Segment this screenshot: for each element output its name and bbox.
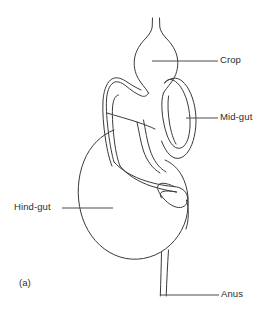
midgut-lower-sweep-bottom — [120, 166, 177, 192]
label-anus: Anus — [221, 288, 243, 299]
oesophagus-right-wall — [160, 18, 167, 38]
anatomical-figure: Crop Mid-gut Hind-gut Anus (a) — [0, 0, 278, 314]
midgut-hindgut-junction-loop — [158, 183, 188, 207]
midgut-descending-left-b — [144, 120, 167, 172]
midgut-right-inner-sliver — [168, 96, 176, 144]
hindgut-outline — [78, 130, 188, 259]
midgut-descending-left — [137, 122, 160, 173]
crop-right-outline — [164, 38, 178, 93]
midgut-crossover-upper — [107, 113, 155, 129]
label-hind-gut: Hind-gut — [14, 201, 51, 212]
rectum-right-wall — [166, 250, 168, 296]
crop-left-outline — [134, 38, 148, 93]
label-crop: Crop — [220, 54, 241, 65]
oesophagus-left-wall — [146, 18, 153, 38]
label-mid-gut: Mid-gut — [220, 111, 252, 122]
gut-diagram-svg — [0, 0, 278, 314]
figure-caption: (a) — [19, 277, 31, 288]
rectum-left-wall — [160, 253, 161, 297]
